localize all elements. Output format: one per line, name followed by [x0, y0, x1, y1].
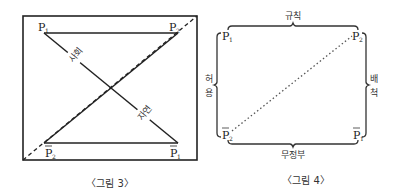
svg-text:2: 2: [229, 135, 233, 142]
figure-4-dotted-diagonal: [232, 36, 352, 131]
figure-4-top-bracket: [228, 23, 358, 30]
svg-text:2: 2: [176, 27, 180, 34]
figure-3-label-lower: 자연: [136, 104, 154, 123]
svg-text:1: 1: [45, 27, 49, 34]
svg-text:배: 배: [370, 74, 378, 84]
figure-4-corner-bottom-left: P 2: [222, 128, 233, 142]
svg-text:척: 척: [370, 88, 378, 98]
svg-text:2: 2: [359, 36, 363, 43]
figure-4-bottom-bracket: [228, 140, 358, 147]
figure-4-label-top: 규칙: [285, 11, 301, 21]
figure-3-caption: 〈그림 3〉: [86, 178, 134, 189]
figure-3-label-upper: 사회: [67, 46, 85, 65]
figure-4-corner-top-right: P 2: [352, 30, 363, 43]
figure-4-right-bracket: [362, 33, 369, 137]
figure-3-corner-top-left: P 1: [38, 21, 49, 34]
svg-text:2: 2: [52, 153, 56, 160]
figure-3-corner-bottom-right: P 1: [170, 146, 181, 160]
figure-3-corner-top-right: P 2: [169, 21, 180, 34]
svg-text:용: 용: [205, 88, 213, 98]
figure-3-corner-bottom-left: P 2: [45, 146, 56, 160]
diagram-canvas: 사회 자연 P 1 P 2 P 2 P 1 〈그림 3〉: [0, 0, 396, 196]
svg-text:1: 1: [177, 153, 181, 160]
figure-4-corner-top-left: P 1: [222, 30, 233, 43]
svg-text:1: 1: [229, 36, 233, 43]
figure-4-left-bracket: [214, 33, 221, 137]
svg-text:1: 1: [360, 135, 364, 142]
figure-4-label-left: 허 용: [205, 74, 213, 98]
figure-4: 규칙 무정부 허 용 배 척 P 1 P 2 P 2 P 1 〈그림 4〉: [205, 11, 378, 186]
figure-4-corner-bottom-right: P 1: [353, 128, 364, 142]
figure-3: 사회 자연 P 1 P 2 P 2 P 1 〈그림 3〉: [23, 16, 197, 189]
svg-text:허: 허: [205, 74, 213, 84]
figure-4-caption: 〈그림 4〉: [282, 175, 330, 186]
figure-4-label-bottom: 무정부: [281, 150, 305, 160]
figure-4-label-right: 배 척: [370, 74, 378, 98]
